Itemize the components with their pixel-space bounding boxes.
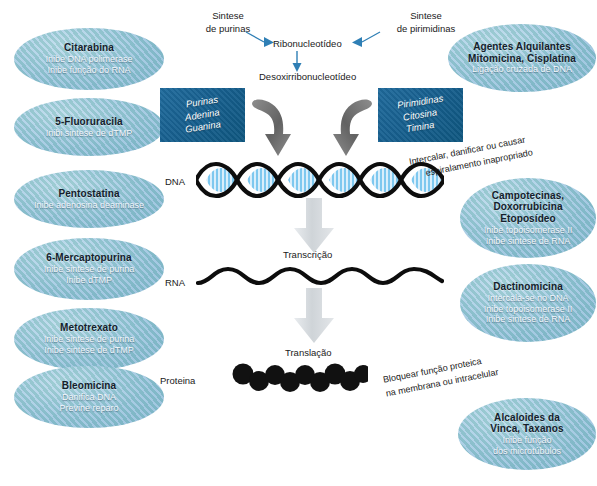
bubble-line: Inibi sintese de dTMP bbox=[46, 128, 133, 139]
bubble-title: Pentostatina bbox=[58, 188, 119, 200]
bubble-title: Bleomicina bbox=[62, 380, 116, 392]
synthesis-pyrimidines-line: de pirimidinas bbox=[378, 23, 474, 36]
bubble-campotecinas[interactable]: Campotecinas, Doxorrubicina Etoposídeo I… bbox=[460, 178, 596, 258]
synthesis-pyrimidines-line: Sintese bbox=[378, 10, 474, 23]
bubble-alcaloides-vinca[interactable]: Alcaloides da Vinca, Taxanos Inibe funçã… bbox=[458, 398, 596, 470]
synthesis-purines-line: Sintese bbox=[188, 10, 268, 23]
ribonucleotide-label: Ribonucleotídeo bbox=[273, 38, 342, 49]
bubble-bleomicina[interactable]: Bleomicina Danifica DNA Previne reparo bbox=[14, 366, 164, 428]
bubble-line: Inibe função bbox=[502, 435, 551, 446]
bubble-title: Etoposídeo bbox=[500, 213, 555, 225]
transcription-block-arrow bbox=[292, 198, 336, 254]
bubble-line: Intercala-se no DNA bbox=[487, 293, 568, 304]
pirimidinas-box-line: Timina bbox=[405, 119, 435, 136]
dna-double-helix bbox=[196, 160, 444, 200]
bubble-title: Citarabina bbox=[64, 42, 114, 54]
bubble-title: Campotecinas, bbox=[492, 190, 564, 202]
bubble-line: Inibe sintese de RNA bbox=[486, 314, 571, 325]
pirimidinas-box[interactable]: Pirimidinas Citosina Timina bbox=[378, 88, 463, 142]
bubble-title: Doxorrubicina bbox=[493, 201, 562, 213]
translation-label: Translação bbox=[285, 347, 332, 358]
bubble-line: Inibe topoisomerase II bbox=[484, 225, 573, 236]
bubble-line: Inibe topoisomerase II bbox=[484, 304, 573, 315]
rna-single-strand bbox=[196, 263, 444, 291]
bubble-line: Previne reparo bbox=[59, 403, 118, 414]
arrow-pyrimidines-to-ribonucleotide bbox=[346, 28, 382, 50]
translation-block-arrow bbox=[292, 288, 336, 344]
bubble-title: Alcaloides da bbox=[494, 412, 560, 424]
bubble-line: Inibe adenosina deaminase bbox=[34, 200, 144, 211]
curved-arrow-pyrimidines-to-dna bbox=[318, 96, 374, 162]
bubble-title: Vinca, Taxanos bbox=[490, 423, 563, 435]
rna-label: RNA bbox=[165, 277, 185, 288]
bubble-line: Danifica DNA bbox=[62, 392, 116, 403]
bubble-line: Ligação cruzada de DNA bbox=[472, 64, 572, 75]
deoxyribonucleotide-label: Desoxirribonucleotídeo bbox=[259, 71, 356, 82]
bubble-line: Inibe função do RNA bbox=[47, 65, 130, 76]
arrow-ribo-to-deoxyribo bbox=[290, 51, 304, 73]
transcription-label: Transcrição bbox=[283, 249, 332, 260]
bubble-6-mercaptopurina[interactable]: 6-Mercaptopurina Inibe sintese de purina… bbox=[14, 238, 164, 300]
bubble-dactinomicina[interactable]: Dactinomicina Intercala-se no DNA Inibe … bbox=[460, 264, 596, 342]
purinas-box[interactable]: Purinas Adenina Guanina bbox=[160, 88, 245, 142]
bubble-line: dos microtúbulos bbox=[493, 446, 561, 457]
bubble-line: Inibe dTMP bbox=[66, 275, 112, 286]
curved-arrow-purines-to-dna bbox=[250, 96, 306, 162]
protein-label: Proteina bbox=[160, 375, 195, 386]
dna-label: DNA bbox=[165, 176, 185, 187]
bubble-title: Metotrexato bbox=[60, 322, 118, 334]
synthesis-pyrimidines-label: Sintese de pirimidinas bbox=[378, 10, 474, 36]
bubble-line: Inibe sintese de RNA bbox=[486, 236, 571, 247]
bubble-title: Dactinomicina bbox=[493, 281, 563, 293]
protein-bead-chain bbox=[232, 362, 368, 396]
bubble-line: Inibe DNA polimerase bbox=[45, 54, 132, 65]
diagram-canvas: Citarabina Inibe DNA polimerase Inibe fu… bbox=[0, 0, 597, 486]
bubble-pentostatina[interactable]: Pentostatina Inibe adenosina deaminase bbox=[14, 170, 164, 228]
bubble-5-fluoruracila[interactable]: 5-Fluoruracila Inibi sintese de dTMP bbox=[14, 98, 164, 156]
bubble-title: 5-Fluoruracila bbox=[55, 116, 123, 128]
bubble-line: Inibe sintese de purina bbox=[44, 264, 135, 275]
bubble-line: Inibe sintese de purina bbox=[44, 334, 135, 345]
bubble-title: Mitomicina, Cisplatina bbox=[468, 53, 576, 65]
bubble-citarabina[interactable]: Citarabina Inibe DNA polimerase Inibe fu… bbox=[14, 28, 164, 90]
bubble-line: Inibe sintese de dTMP bbox=[44, 345, 134, 356]
bubble-metotrexato[interactable]: Metotrexato Inibe sintese de purina Inib… bbox=[14, 308, 164, 370]
bubble-title: Agentes Alquilantes bbox=[473, 41, 571, 53]
bubble-title: 6-Mercaptopurina bbox=[46, 252, 132, 264]
protein-block-note: Bloquear função proteica na membrana ou … bbox=[382, 352, 500, 400]
